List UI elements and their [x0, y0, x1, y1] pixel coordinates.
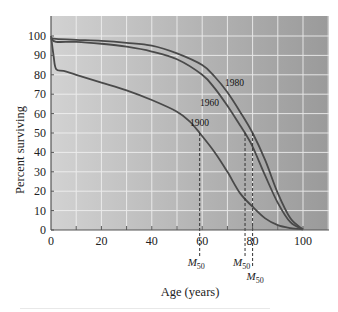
y-tick: 20 — [34, 184, 46, 198]
x-tick: 0 — [48, 234, 54, 248]
label-1980: 1980 — [225, 78, 244, 88]
x-tick: 60 — [196, 234, 208, 248]
y-tick: 50 — [34, 126, 46, 140]
label-1900: 1900 — [190, 118, 209, 128]
y-tick: 30 — [34, 165, 46, 179]
y-tick: 60 — [34, 107, 46, 121]
label-1960: 1960 — [200, 98, 219, 108]
y-tick-labels: 0102030405060708090100 — [28, 29, 54, 237]
y-tick: 0 — [40, 223, 46, 237]
y-axis-title: Percent surviving — [13, 105, 27, 194]
caption-remnant — [20, 308, 270, 309]
x-tick: 20 — [95, 234, 107, 248]
y-tick: 70 — [34, 87, 46, 101]
y-tick: 80 — [34, 68, 46, 82]
plot-area — [51, 16, 329, 268]
y-tick: 90 — [34, 48, 46, 62]
x-tick: 100 — [294, 234, 312, 248]
m50-label: M50 — [232, 256, 250, 271]
x-tick: 80 — [247, 234, 259, 248]
survivorship-chart: 0102030405060708090100 020406080100 1980… — [0, 0, 338, 312]
x-axis-title: Age (years) — [161, 285, 220, 299]
m50-label: M50 — [187, 256, 205, 271]
m50-label: M50 — [246, 270, 264, 285]
y-tick: 40 — [34, 145, 46, 159]
y-tick: 100 — [28, 29, 46, 43]
y-tick: 10 — [34, 204, 46, 218]
x-tick: 40 — [146, 234, 158, 248]
